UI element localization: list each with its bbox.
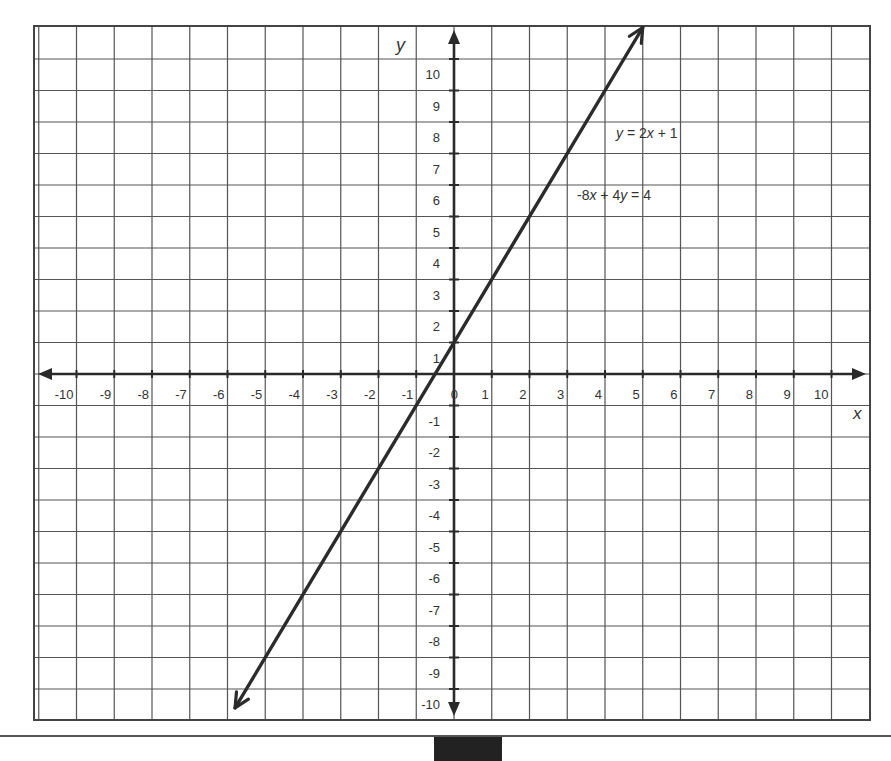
y-tick-label: -9 [428,666,440,681]
x-tick-label: 3 [557,387,564,402]
axes [38,30,866,716]
x-tick-label: 9 [784,387,791,402]
x-tick-label: -5 [251,387,263,402]
y-tick-label: 2 [433,319,440,334]
y-tick-label: -5 [428,540,440,555]
y-tick-label: 10 [426,67,440,82]
x-axis-right-arrow-icon [852,368,866,380]
coordinate-plane: -10-9-8-7-6-5-4-3-2-10123456789101098765… [0,0,891,761]
x-tick-label: 2 [519,387,526,402]
annotations: y = 2x + 1-8x + 4y = 4 [577,125,678,203]
y-tick-label: 5 [433,225,440,240]
y-tick-label: -3 [428,477,440,492]
y-tick-label: 4 [433,256,440,271]
y-axis-down-arrow-icon [448,702,460,716]
equation-label-slope-intercept: y = 2x + 1 [615,125,678,141]
y-tick-label: 6 [433,193,440,208]
equation-part: + 4 [596,187,620,203]
equation-part: = 2 [623,125,647,141]
y-tick-label: -10 [421,697,440,712]
x-tick-label: 10 [814,387,828,402]
x-tick-label: -9 [100,387,112,402]
dark-block [434,737,502,761]
y-tick-label: 3 [433,288,440,303]
x-tick-label: -4 [288,387,300,402]
y-tick-label: 8 [433,130,440,145]
x-tick-label: 1 [482,387,489,402]
x-tick-label: 7 [708,387,715,402]
x-tick-label: -2 [364,387,376,402]
x-tick-label: -1 [402,387,414,402]
x-axis-left-arrow-icon [38,368,52,380]
y-tick-label: -1 [428,414,440,429]
y-tick-label: 1 [433,351,440,366]
x-tick-label: -7 [175,387,187,402]
y-tick-label: -4 [428,508,440,523]
y-tick-label: -8 [428,634,440,649]
x-tick-label: -3 [326,387,338,402]
x-tick-label: 0 [451,387,458,402]
x-tick-label: 5 [633,387,640,402]
x-tick-label: 8 [746,387,753,402]
equation-part: + 1 [654,125,678,141]
tick-labels: -10-9-8-7-6-5-4-3-2-10123456789101098765… [55,67,829,712]
equation-part: -8 [577,187,590,203]
x-axis-label: x [852,404,862,423]
equation-label-standard-form: -8x + 4y = 4 [577,187,651,203]
y-tick-label: -2 [428,445,440,460]
equation-part: = 4 [627,187,651,203]
y-axis-label: y [394,35,406,55]
y-tick-label: 7 [433,162,440,177]
x-tick-label: 6 [670,387,677,402]
x-tick-label: -6 [213,387,225,402]
y-axis-up-arrow-icon [448,30,460,44]
x-tick-label: 4 [595,387,602,402]
y-tick-label: -7 [428,603,440,618]
x-tick-label: -8 [137,387,149,402]
y-tick-label: -6 [428,571,440,586]
x-tick-label: -10 [55,387,74,402]
y-tick-label: 9 [433,99,440,114]
